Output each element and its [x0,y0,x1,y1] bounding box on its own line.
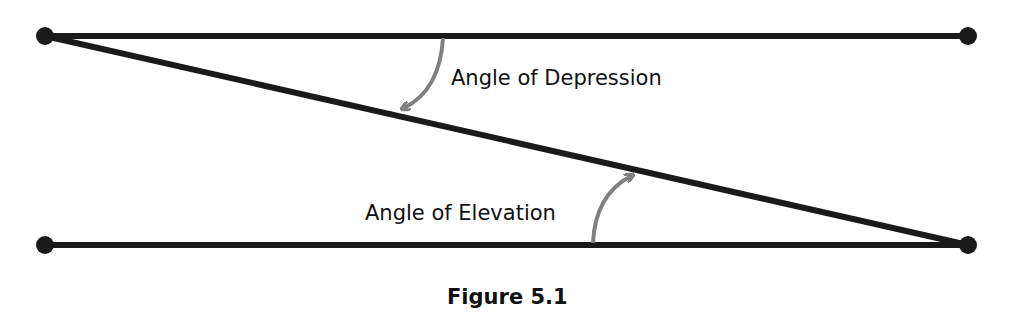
angle-diagram [0,0,1010,317]
figure-caption: Figure 5.1 [447,285,568,309]
angle-of-depression-label: Angle of Depression [451,66,662,90]
angle-of-elevation-label: Angle of Elevation [365,201,556,225]
depression-arc-arrow [404,38,443,108]
elevation-arc-arrow [593,176,631,243]
point-top-left [36,27,54,45]
point-bottom-left [36,236,54,254]
point-bottom-right [959,236,977,254]
point-top-right [959,27,977,45]
